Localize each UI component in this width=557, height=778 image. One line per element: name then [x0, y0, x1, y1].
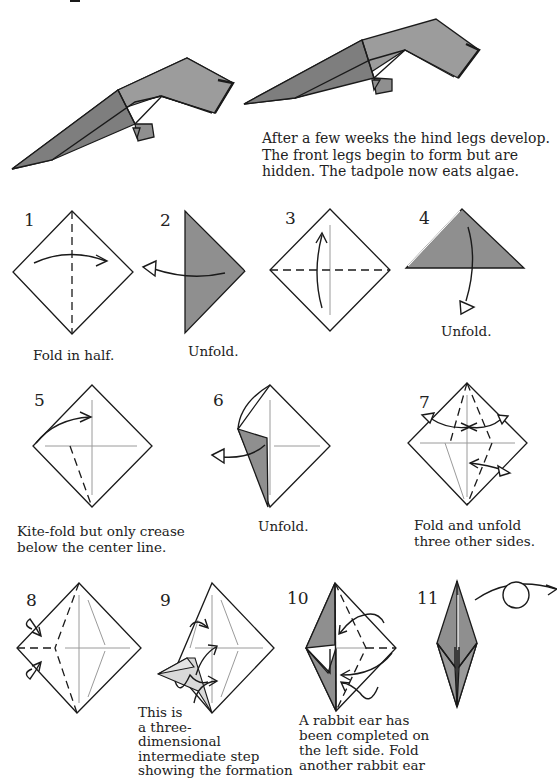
step-10-caption: A rabbit ear has been completed on the l…	[299, 713, 429, 773]
tadpole-model-right	[240, 0, 480, 110]
step-1-diagram	[0, 195, 150, 345]
step-5-caption-line-1: Kite-fold but only crease	[17, 523, 185, 539]
step-10-caption-line-4: another rabbit ear	[299, 758, 429, 773]
step-7-caption-line-1: Fold and unfold	[414, 517, 535, 533]
tadpole-description-line-1: After a few weeks the hind legs develop.	[262, 130, 550, 147]
step-9-caption-line-1: This is	[138, 705, 293, 720]
step-9-diagram	[150, 575, 290, 725]
step-2-diagram	[130, 195, 260, 345]
step-9-caption-line-5: showing the formation	[138, 763, 293, 778]
tadpole-description-line-2: The front legs begin to form but are	[262, 147, 550, 164]
step-10-caption-line-1: A rabbit ear has	[299, 713, 429, 728]
step-5-diagram	[20, 375, 170, 525]
step-8-diagram	[10, 575, 150, 725]
step-9-caption-line-4: intermediate step	[138, 749, 293, 764]
step-9-caption-line-3: dimensional	[138, 734, 293, 749]
step-3-diagram	[265, 195, 405, 345]
step-4-caption: Unfold.	[441, 323, 491, 339]
tadpole-description: After a few weeks the hind legs develop.…	[262, 130, 550, 180]
step-10-caption-line-2: been completed on	[299, 728, 429, 743]
step-10-caption-line-3: the left side. Fold	[299, 743, 429, 758]
step-7-caption-line-2: three other sides.	[414, 533, 535, 549]
step-5-caption: Kite-fold but only crease below the cent…	[17, 523, 185, 555]
step-6-caption: Unfold.	[258, 518, 308, 534]
step-9-caption: This is a three- dimensional intermediat…	[138, 705, 293, 778]
step-6-diagram	[210, 375, 360, 525]
step-9-caption-line-2: a three-	[138, 720, 293, 735]
tadpole-description-line-3: hidden. The tadpole now eats algae.	[262, 163, 550, 180]
step-7-diagram	[400, 375, 550, 525]
step-4-diagram	[400, 195, 540, 325]
step-2-caption: Unfold.	[188, 343, 238, 359]
step-5-caption-line-2: below the center line.	[17, 539, 185, 555]
step-7-caption: Fold and unfold three other sides.	[414, 517, 535, 549]
step-1-caption: Fold in half.	[33, 347, 114, 363]
tadpole-model-left	[0, 0, 240, 180]
step-10-diagram	[300, 575, 430, 725]
turn-over-symbol	[470, 575, 557, 625]
